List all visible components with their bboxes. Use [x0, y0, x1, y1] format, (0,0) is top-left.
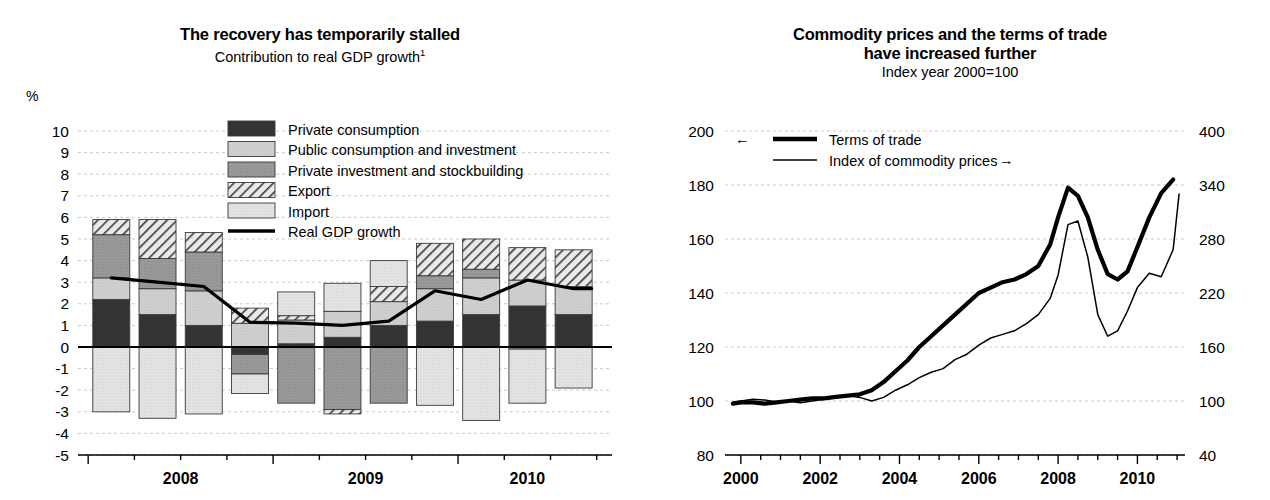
bar-segment	[463, 269, 500, 278]
bar-segment	[463, 239, 500, 269]
legend-label: Public consumption and investment	[288, 142, 516, 158]
bar-segment	[185, 233, 222, 252]
right-left-y-tick-label: 120	[688, 339, 714, 356]
right-right-y-tick-label: 340	[1199, 177, 1225, 194]
right-left-y-tick-label: 140	[688, 285, 714, 302]
bar-segment	[555, 287, 592, 315]
left-y-tick-label: -5	[55, 447, 69, 464]
right-x-year-label: 2008	[1040, 470, 1076, 487]
bar-segment	[509, 248, 546, 280]
legend-swatch	[228, 203, 275, 218]
right-right-y-tick-label: 40	[1199, 447, 1217, 464]
bar-segment	[509, 349, 546, 403]
legend-swatch	[228, 142, 275, 157]
bar-segment	[463, 347, 500, 420]
left-y-tick-label: -3	[55, 403, 69, 420]
left-arrow-icon: ←	[735, 131, 750, 147]
left-x-year-label: 2010	[510, 470, 546, 487]
right-arrow-icon: →	[999, 152, 1014, 168]
right-x-axis: 200020022004200620082010	[723, 455, 1185, 487]
right-left-y-tick-label: 80	[697, 447, 715, 464]
left-y-tick-label: -4	[55, 425, 69, 442]
left-y-tick-label: -2	[55, 382, 69, 399]
bar-segment	[555, 315, 592, 347]
bar-segment	[93, 299, 130, 347]
bar-segment	[231, 323, 268, 347]
bar-segment	[555, 250, 592, 287]
legend-label: Export	[288, 183, 330, 199]
right-right-axis-ticks: 40100160220280340400	[1199, 123, 1225, 464]
left-x-year-label: 2008	[163, 470, 199, 487]
bar-segment	[139, 347, 176, 418]
legend-label: Import	[288, 204, 329, 220]
left-y-tick-label: 7	[60, 187, 69, 204]
left-y-axis-ticks: 109876543210-1-2-3-4-5	[52, 123, 70, 464]
bar-segment	[93, 235, 130, 278]
legend-swatch	[228, 183, 275, 198]
bar-segment	[231, 347, 268, 355]
bar-segment	[416, 276, 453, 289]
bar-segment	[231, 374, 268, 393]
bar-segment	[185, 347, 222, 414]
right-left-y-tick-label: 180	[688, 177, 714, 194]
right-right-y-tick-label: 280	[1199, 231, 1225, 248]
bar-segment	[555, 347, 592, 388]
left-y-tick-label: 8	[60, 166, 69, 183]
legend-label-terms-of-trade: Terms of trade	[829, 132, 922, 148]
legend-swatch	[228, 162, 275, 177]
right-right-y-tick-label: 100	[1199, 393, 1225, 410]
right-left-y-tick-label: 160	[688, 231, 714, 248]
bar-segment	[139, 315, 176, 347]
legend-swatch	[228, 121, 275, 136]
bar-segment	[463, 315, 500, 347]
left-y-tick-label: 2	[60, 295, 69, 312]
right-x-year-label: 2006	[961, 470, 997, 487]
right-right-y-tick-label: 220	[1199, 285, 1225, 302]
left-y-tick-label: 10	[52, 123, 70, 140]
right-x-year-label: 2002	[802, 470, 838, 487]
left-x-axis: 200820092010	[78, 455, 612, 487]
legend-label: Real GDP growth	[288, 224, 401, 240]
bar-segment	[93, 347, 130, 412]
right-left-y-tick-label: 100	[688, 393, 714, 410]
left-y-tick-label: 9	[60, 144, 69, 161]
terms-of-trade-chart: 80100120140160180200 4010016022028034040…	[640, 0, 1270, 500]
left-y-tick-label: -1	[55, 360, 69, 377]
bar-segment	[185, 325, 222, 347]
bar-segment	[278, 347, 315, 403]
bar-segment	[509, 306, 546, 347]
terms-of-trade-line	[733, 180, 1173, 404]
bar-segment	[278, 316, 315, 320]
bar-segment	[324, 283, 361, 311]
left-y-tick-label: 3	[60, 274, 69, 291]
right-left-axis-ticks: 80100120140160180200	[688, 123, 714, 464]
bar-segment	[324, 410, 361, 414]
bar-segment	[93, 220, 130, 235]
bar-segment	[370, 347, 407, 403]
stacked-bars-group	[93, 220, 592, 421]
right-gridlines	[725, 131, 1185, 455]
bar-segment	[278, 292, 315, 316]
gdp-contribution-panel: The recovery has temporarily stalled Con…	[0, 0, 640, 500]
bar-segment	[139, 289, 176, 315]
right-right-y-tick-label: 400	[1199, 123, 1225, 140]
right-left-y-tick-label: 200	[688, 123, 714, 140]
left-y-tick-label: 6	[60, 209, 69, 226]
left-y-tick-label: 0	[60, 339, 69, 356]
bar-segment	[139, 220, 176, 259]
left-y-tick-label: 5	[60, 231, 69, 248]
commodity-price-line	[733, 194, 1179, 403]
bar-segment	[231, 355, 268, 374]
bar-segment	[324, 337, 361, 347]
right-chart-legend: ←Terms of tradeIndex of commodity prices…	[735, 131, 1014, 169]
legend-label: Private consumption	[288, 122, 419, 138]
bar-segment	[416, 321, 453, 347]
bar-segment	[416, 243, 453, 275]
right-x-year-label: 2010	[1120, 470, 1156, 487]
right-series-group	[733, 180, 1179, 404]
bar-segment	[370, 261, 407, 287]
gdp-contribution-chart: 109876543210-1-2-3-4-5 200820092010 Priv…	[0, 0, 640, 500]
legend-label: Private investment and stockbuilding	[288, 163, 523, 179]
left-y-tick-label: 1	[60, 317, 69, 334]
right-x-year-label: 2004	[882, 470, 918, 487]
